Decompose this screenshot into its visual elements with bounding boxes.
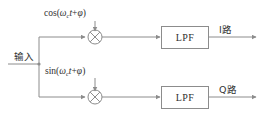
upper-carrier-omega: ω bbox=[60, 8, 67, 18]
upper-carrier-label: cos(ωct+φ) bbox=[44, 9, 86, 20]
upper-carrier-prefix: cos( bbox=[44, 8, 60, 18]
upper-carrier-suffix: ) bbox=[83, 8, 86, 18]
block-diagram: 输入 cos(ωct+φ) sin(ωct+φ) LPF LPF I路 Q路 bbox=[0, 0, 264, 123]
upper-lpf-box: LPF bbox=[161, 26, 209, 49]
lower-carrier-prefix: sin( bbox=[45, 66, 59, 76]
lower-lpf-label: LPF bbox=[176, 92, 194, 103]
lower-carrier-label: sin(ωct+φ) bbox=[45, 67, 85, 78]
input-label: 输入 bbox=[14, 52, 35, 62]
upper-lpf-label: LPF bbox=[176, 32, 194, 43]
diagram-canvas bbox=[0, 0, 264, 123]
i-branch-label: I路 bbox=[219, 25, 232, 35]
q-branch-label: Q路 bbox=[219, 85, 237, 95]
lower-lpf-box: LPF bbox=[161, 86, 209, 109]
input-junction-dot bbox=[37, 62, 40, 65]
lower-carrier-omega: ω bbox=[59, 66, 66, 76]
lower-carrier-suffix: ) bbox=[82, 66, 85, 76]
